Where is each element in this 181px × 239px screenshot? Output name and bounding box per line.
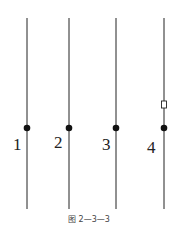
line-label-4: 4 [147,138,156,157]
line-label-2: 2 [54,133,63,152]
line-label-1: 1 [13,135,22,154]
point-dot-icon [24,125,31,132]
vertical-line-2: 2 [54,18,72,209]
vertical-line-3: 3 [102,18,119,209]
vertical-line-1: 1 [13,18,30,209]
point-dot-icon [66,125,73,132]
figure-caption: 图 2—3—3 [68,215,110,224]
point-dot-icon [113,125,120,132]
vertical-line-4: 4 [147,18,167,209]
diagram-canvas: 1 2 3 4 图 2—3—3 [0,0,181,239]
point-dot-icon [161,125,168,132]
rectangle-marker-icon [162,101,167,108]
line-label-3: 3 [102,135,111,154]
